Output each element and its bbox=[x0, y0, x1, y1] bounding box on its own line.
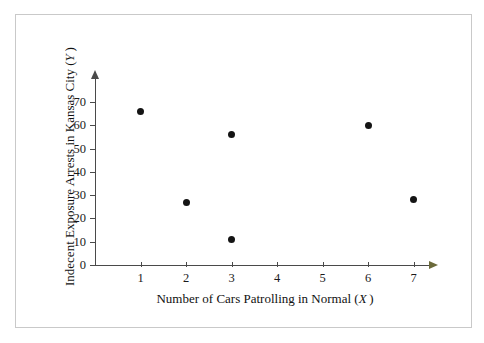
x-axis-title-text: Number of Cars Patrolling in Normal bbox=[156, 291, 351, 306]
y-axis-tick bbox=[90, 149, 95, 150]
y-axis-tick bbox=[90, 102, 95, 103]
y-axis-tick bbox=[90, 218, 95, 219]
y-axis-title-paren-close: ) bbox=[62, 47, 77, 54]
x-axis-tick-label: 3 bbox=[222, 272, 242, 286]
x-axis-tick-label-text: 4 bbox=[267, 272, 287, 285]
x-axis-tick-label: 2 bbox=[176, 272, 196, 286]
x-axis-tick-label: 6 bbox=[358, 272, 378, 286]
y-axis-variable: Y bbox=[62, 54, 77, 61]
data-point bbox=[365, 122, 372, 129]
x-axis-variable: X bbox=[359, 291, 367, 306]
y-axis-tick bbox=[90, 125, 95, 126]
x-axis-tick-label: 7 bbox=[404, 272, 424, 286]
x-axis-tick-label-text: 5 bbox=[313, 272, 333, 285]
x-axis-tick-label: 4 bbox=[267, 272, 287, 286]
x-axis-tick bbox=[141, 262, 142, 267]
data-point bbox=[137, 108, 144, 115]
y-axis-arrowhead bbox=[91, 70, 99, 79]
x-axis-tick bbox=[186, 262, 187, 267]
y-axis-tick bbox=[90, 242, 95, 243]
y-axis-tick bbox=[90, 195, 95, 196]
x-axis-tick-label-text: 6 bbox=[358, 272, 378, 285]
x-axis-tick bbox=[277, 262, 278, 267]
x-axis-title-paren-close: ) bbox=[367, 291, 374, 306]
x-axis-arrowhead bbox=[429, 261, 438, 269]
x-axis-line bbox=[95, 265, 430, 266]
x-axis-tick-label-text: 2 bbox=[176, 272, 196, 285]
y-axis-title-text: Indecent Exposure Arrests in Kansas City bbox=[62, 69, 77, 286]
data-point bbox=[410, 196, 417, 203]
x-axis-title-paren-open: ( bbox=[351, 291, 359, 306]
x-axis-tick-label-text: 1 bbox=[131, 272, 151, 285]
x-axis-tick-label-text: 7 bbox=[404, 272, 424, 285]
x-axis-tick bbox=[232, 262, 233, 267]
y-axis-line bbox=[95, 78, 96, 265]
x-axis-tick-label-text: 3 bbox=[222, 272, 242, 285]
y-axis-title-paren-open: ( bbox=[62, 61, 77, 69]
x-axis-tick bbox=[414, 262, 415, 267]
x-axis-tick-label: 5 bbox=[313, 272, 333, 286]
x-axis-tick bbox=[368, 262, 369, 267]
figure-page: 010203040506070 1234567 Number of Cars P… bbox=[0, 0, 484, 343]
x-axis-tick bbox=[323, 262, 324, 267]
data-point bbox=[228, 131, 235, 138]
y-axis-tick bbox=[90, 265, 95, 266]
x-axis-tick-label: 1 bbox=[131, 272, 151, 286]
data-point bbox=[228, 236, 235, 243]
data-point bbox=[183, 199, 190, 206]
y-axis-tick bbox=[90, 172, 95, 173]
x-axis-title: Number of Cars Patrolling in Normal (X ) bbox=[95, 291, 435, 307]
y-axis-title: Indecent Exposure Arrests in Kansas City… bbox=[62, 66, 78, 286]
scatter-plot: 010203040506070 1234567 Number of Cars P… bbox=[0, 0, 484, 343]
